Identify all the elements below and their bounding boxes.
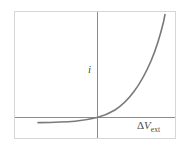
- diode-curve: [38, 15, 165, 123]
- diode-iv-characteristic-figure: i ΔVext: [0, 0, 189, 151]
- voltage-subscript: ext: [151, 125, 160, 134]
- current-axis-label: i: [88, 64, 91, 75]
- voltage-symbol: V: [144, 119, 151, 131]
- voltage-axis-label: ΔVext: [137, 120, 160, 134]
- plot-canvas: [0, 0, 189, 151]
